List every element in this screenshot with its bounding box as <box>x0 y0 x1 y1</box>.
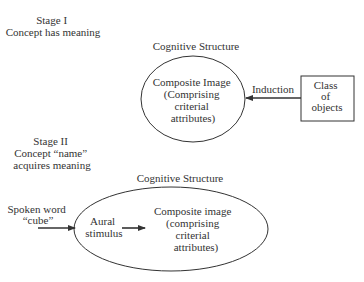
ellipse-text-line: Composite Image <box>153 76 231 88</box>
stage-1-title: Stage I Concept has meaning <box>6 14 101 38</box>
ellipse-text-line: criterial <box>176 229 210 241</box>
stage-2-subtitle-line: Concept “name” <box>14 147 87 159</box>
box-text-line: objects <box>311 101 342 113</box>
stage-2-subtitle-line: acquires meaning <box>13 159 91 171</box>
stage-2-title: Stage II Concept “name” acquires meaning <box>13 135 91 171</box>
diagram-canvas: Stage I Concept has meaning Cognitive St… <box>0 0 364 282</box>
aural-stimulus-label: Aural stimulus <box>85 215 122 239</box>
stage-1-title-line: Stage I <box>36 14 67 26</box>
aural-stimulus-line: Aural <box>90 215 115 227</box>
stage-1-composite-image-text: Composite Image (Comprising criterial at… <box>153 76 234 125</box>
ellipse-text-line: attributes) <box>174 241 219 254</box>
induction-label: Induction <box>252 83 295 95</box>
stage-1: Stage I Concept has meaning Cognitive St… <box>6 14 354 142</box>
spoken-word-line: “cube” <box>23 214 54 226</box>
stage-2-structure-label: Cognitive Structure <box>137 172 224 184</box>
stage-2: Stage II Concept “name” acquires meaning… <box>7 135 268 271</box>
spoken-word-label: Spoken word “cube” <box>7 203 68 226</box>
stage-1-structure-label: Cognitive Structure <box>153 40 240 52</box>
stage-2-composite-image-text: Composite image (comprising criterial at… <box>154 205 234 254</box>
class-of-objects-text: Class of objects <box>311 79 342 113</box>
stage-1-subtitle-line: Concept has meaning <box>6 26 101 38</box>
ellipse-text-line: attributes) <box>171 112 216 125</box>
ellipse-text-line: Composite image <box>154 205 231 217</box>
stage-2-title-line: Stage II <box>33 135 68 147</box>
aural-stimulus-line: stimulus <box>85 227 122 239</box>
ellipse-text-line: criterial <box>175 100 209 112</box>
